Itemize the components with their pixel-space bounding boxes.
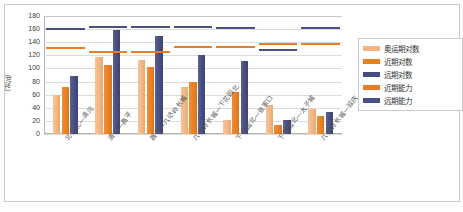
bar xyxy=(223,120,231,134)
legend-item[interactable]: 奥运期对数 xyxy=(363,42,459,55)
step-line-segment xyxy=(89,51,128,53)
bar xyxy=(95,57,103,134)
legend-label: 远期对数 xyxy=(384,69,412,80)
step-line-segment xyxy=(174,46,213,48)
step-line-segment xyxy=(301,27,340,29)
step-line-segment xyxy=(259,43,298,45)
legend-swatch xyxy=(363,59,380,64)
step-line-segment xyxy=(131,26,170,28)
bar xyxy=(104,65,112,134)
y-axis-tick: 120 xyxy=(0,51,40,58)
y-axis-tick: 80 xyxy=(0,78,40,85)
legend-item[interactable]: 远期能力 xyxy=(363,94,459,107)
bar xyxy=(189,82,197,134)
legend-label: 奥运期对数 xyxy=(384,43,419,54)
step-line-segment xyxy=(216,27,255,29)
legend-item[interactable]: 近期能力 xyxy=(363,81,459,94)
x-axis-tick-labels: 北京北—清河清河—昌平昌平—八达岭长城八达岭长城—下花园北下花园北—张家口下花园… xyxy=(44,136,344,200)
bar xyxy=(266,105,274,134)
legend-swatch xyxy=(363,98,380,103)
y-axis-tick: 140 xyxy=(0,38,40,45)
y-axis-tick: 40 xyxy=(0,104,40,111)
step-line-segment xyxy=(131,51,170,53)
step-line-segment xyxy=(301,43,340,45)
legend-swatch xyxy=(363,72,380,77)
step-line-segment xyxy=(174,26,213,28)
bar xyxy=(53,95,61,134)
y-axis-tick: 0 xyxy=(0,130,40,137)
bar xyxy=(308,109,316,134)
bar xyxy=(138,60,146,134)
legend-swatch xyxy=(363,46,380,51)
y-axis-tick: 160 xyxy=(0,25,40,32)
legend-label: 近期对数 xyxy=(384,56,412,67)
bar xyxy=(147,67,155,134)
legend-label: 近期能力 xyxy=(384,82,412,93)
step-line-segment xyxy=(259,49,298,51)
step-line-segment xyxy=(216,46,255,48)
y-axis-tick: 100 xyxy=(0,64,40,71)
step-line-segment xyxy=(46,47,85,49)
step-line-segment xyxy=(89,26,128,28)
y-axis-tick: 20 xyxy=(0,117,40,124)
legend-label: 远期能力 xyxy=(384,95,412,106)
step-line-segment xyxy=(46,28,85,30)
legend-item[interactable]: 近期对数 xyxy=(363,55,459,68)
legend-item[interactable]: 远期对数 xyxy=(363,68,459,81)
y-axis-tick: 180 xyxy=(0,12,40,19)
chart-legend: 奥运期对数近期对数远期对数近期能力远期能力 xyxy=(358,38,463,111)
legend-swatch xyxy=(363,85,380,90)
y-axis-tick: 60 xyxy=(0,91,40,98)
y-axis-tick-labels: 180160140120100806040200 xyxy=(0,16,40,134)
